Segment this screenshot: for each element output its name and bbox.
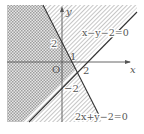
- tick-x-2: 2: [83, 65, 89, 76]
- y-axis-label: y: [65, 6, 72, 17]
- equation-line2: 2x+y−2=0: [75, 111, 128, 122]
- origin-label: O: [52, 64, 60, 75]
- equation-line1: x−y−2=0: [82, 27, 129, 38]
- tick-y-neg2: −2: [64, 83, 79, 94]
- x-axis-label: x: [130, 64, 136, 75]
- tick-x-1: 1: [70, 51, 76, 62]
- inequality-graph: y x 2 2 1 O 2 −2 −2 x−y−2=0 x−y−2=0 2x+y…: [0, 0, 144, 134]
- tick-y-2: 2: [51, 38, 57, 49]
